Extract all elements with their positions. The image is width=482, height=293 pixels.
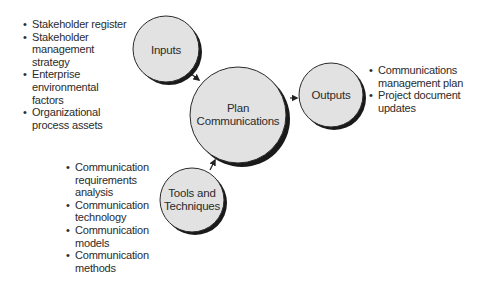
tools-label: Tools and Techniques [164,187,220,213]
bullet-icon: • [23,68,27,81]
bullet-icon: • [369,64,373,77]
list-item: • Communication models [66,224,149,249]
bullet-icon: • [66,161,70,174]
list-item-text: Organizational [32,106,126,119]
list-item-text: strategy [32,56,126,69]
list-item: • Communications management plan [369,64,463,89]
list-item-text: management [32,43,126,56]
tools-label-line2: Techniques [164,200,220,213]
inputs-label: Inputs [151,44,181,57]
outputs-list: • Communications management plan • Proje… [369,64,463,114]
inputs-list: • Stakeholder register • Stakeholder man… [23,18,126,131]
bullet-icon: • [66,249,70,262]
tools-to-process-arrow [210,160,215,170]
list-item-text: Communications [378,64,463,77]
outputs-label: Outputs [312,89,351,102]
bullet-icon: • [369,89,373,102]
itto-diagram: Inputs Plan Communications Outputs Tools… [0,0,482,293]
list-item-text: technology [75,211,149,224]
list-item: • Project document updates [369,89,463,114]
process-label: Plan Communications [197,102,280,128]
list-item-text: models [75,237,149,250]
list-item-text: Project document [378,89,463,102]
tools-label-line1: Tools and [164,187,220,200]
process-label-line2: Communications [197,115,280,128]
list-item-text: Communication [75,199,149,212]
list-item-text: environmental [32,81,126,94]
list-item-text: Communication [75,224,149,237]
inputs-to-process-arrow [190,73,199,80]
process-label-line1: Plan [197,102,280,115]
tools-list: • Communication requirements analysis • … [66,161,149,274]
list-item: • Stakeholder register [23,18,126,31]
bullet-icon: • [66,199,70,212]
list-item-text: factors [32,94,126,107]
bullet-icon: • [66,224,70,237]
list-item: • Communication requirements analysis [66,161,149,199]
list-item-text: management plan [378,77,463,90]
bullet-icon: • [23,18,27,31]
list-item-text: analysis [75,186,149,199]
list-item: • Stakeholder management strategy [23,31,126,69]
list-item: • Enterprise environmental factors [23,68,126,106]
list-item-text: Enterprise [32,68,126,81]
bullet-icon: • [23,106,27,119]
list-item-text: requirements [75,174,149,187]
list-item: • Organizational process assets [23,106,126,131]
list-item: • Communication technology [66,199,149,224]
list-item-text: process assets [32,119,126,132]
list-item-text: Stakeholder register [32,18,126,31]
list-item: • Communication methods [66,249,149,274]
list-item-text: Communication [75,161,149,174]
list-item-text: updates [378,102,463,115]
bullet-icon: • [23,31,27,44]
list-item-text: methods [75,262,149,275]
list-item-text: Stakeholder [32,31,126,44]
list-item-text: Communication [75,249,149,262]
